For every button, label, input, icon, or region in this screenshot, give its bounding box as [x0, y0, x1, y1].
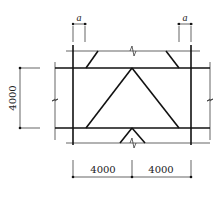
- bottom-stub-right-brace: [132, 128, 145, 143]
- dim-tick-icon: [72, 23, 74, 25]
- height-label: 4000: [7, 85, 18, 110]
- dim-tick-icon: [190, 23, 192, 25]
- dim-tick-icon: [131, 176, 134, 179]
- dim-tick-icon: [84, 23, 86, 25]
- top-left-brace: [86, 51, 98, 68]
- chevron-right-brace: [132, 68, 179, 128]
- span-left-label: 4000: [90, 164, 115, 175]
- top-right-brace: [166, 51, 179, 68]
- bottom-stub-left-brace: [120, 128, 132, 143]
- dim-tick-icon: [178, 23, 180, 25]
- a-right-label: a: [183, 12, 188, 23]
- span-right-label: 4000: [148, 164, 173, 175]
- right-break-mark-icon: [207, 99, 213, 101]
- dim-tick-icon: [190, 176, 193, 179]
- dim-tick-icon: [19, 127, 22, 130]
- left-break-mark-icon: [52, 99, 58, 101]
- dim-tick-icon: [19, 67, 22, 70]
- dim-tick-icon: [72, 176, 75, 179]
- chevron-left-brace: [86, 68, 132, 128]
- a-left-label: a: [77, 12, 82, 23]
- bracing-diagram: a a 4000 4000 4000: [0, 0, 223, 197]
